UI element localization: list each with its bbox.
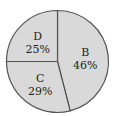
slice-value-c: 29%	[28, 85, 52, 98]
slice-value-d: 25%	[25, 43, 49, 56]
slice-label-c: C	[36, 72, 44, 85]
slice-label-b: B	[81, 46, 89, 59]
slice-label-d: D	[33, 30, 42, 43]
slice-value-b: 46%	[73, 59, 97, 72]
pie-chart: B46%C29%D25%	[0, 0, 115, 116]
